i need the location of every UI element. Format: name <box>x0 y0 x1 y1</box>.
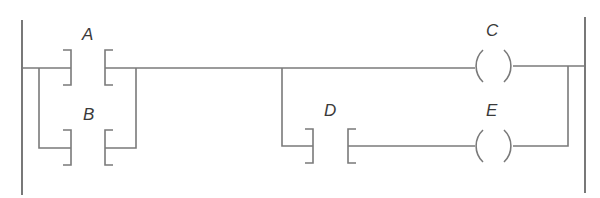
ladder-diagram: A B C D E <box>0 0 600 198</box>
coil-c-label: C <box>486 21 499 40</box>
coil-e-right-wire <box>513 66 568 146</box>
coil-c: C <box>476 21 511 82</box>
branch-b-left-wire <box>39 68 71 148</box>
contact-d: D <box>305 101 356 163</box>
branch-d-left-wire <box>282 68 313 146</box>
contact-a: A <box>63 25 113 85</box>
contact-a-label: A <box>81 25 93 44</box>
contact-b-label: B <box>83 105 94 124</box>
contact-d-label: D <box>324 101 336 120</box>
contact-b: B <box>63 105 113 165</box>
branch-b-right-wire <box>105 68 136 148</box>
coil-e-label: E <box>486 101 498 120</box>
coil-e: E <box>476 101 511 162</box>
